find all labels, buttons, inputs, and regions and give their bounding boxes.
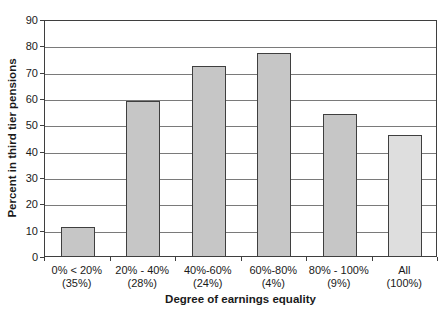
y-tick-mark	[40, 204, 44, 205]
gridline	[45, 153, 436, 154]
x-tick-mark	[241, 257, 242, 261]
chart-bar	[323, 114, 357, 256]
gridline	[45, 74, 436, 75]
y-tick-mark	[40, 46, 44, 47]
category-share-text: (35%)	[40, 277, 114, 290]
x-axis-title: Degree of earnings equality	[44, 293, 437, 305]
category-range-text: 40%-60%	[171, 264, 245, 277]
y-axis-title: Percent in third tier pensions	[6, 58, 18, 217]
gridline	[45, 179, 436, 180]
x-tick-mark	[175, 257, 176, 261]
category-share-text: (4%)	[237, 277, 311, 290]
y-tick-label: 90	[4, 14, 38, 26]
y-tick-mark	[40, 178, 44, 179]
y-tick-label: 30	[4, 172, 38, 184]
y-tick-label: 0	[4, 251, 38, 263]
x-category-label: 40%-60%(24%)	[171, 264, 245, 290]
y-tick-label: 60	[4, 93, 38, 105]
x-category-label: 80% - 100%(9%)	[302, 264, 376, 290]
category-range-text: 80% - 100%	[302, 264, 376, 277]
x-tick-mark	[437, 257, 438, 261]
category-share-text: (24%)	[171, 277, 245, 290]
y-tick-mark	[40, 73, 44, 74]
bar-chart: Percent in third tier pensions 010203040…	[0, 0, 445, 317]
gridline	[45, 47, 436, 48]
x-tick-mark	[110, 257, 111, 261]
category-range-text: 0% < 20%	[40, 264, 114, 277]
category-range-text: 60%-80%	[237, 264, 311, 277]
x-category-label: 0% < 20%(35%)	[40, 264, 114, 290]
y-tick-label: 20	[4, 198, 38, 210]
chart-bar	[257, 53, 291, 256]
chart-bar	[388, 135, 422, 256]
y-tick-label: 40	[4, 146, 38, 158]
y-tick-label: 80	[4, 40, 38, 52]
y-tick-mark	[40, 20, 44, 21]
gridline	[45, 100, 436, 101]
y-tick-mark	[40, 152, 44, 153]
x-tick-mark	[44, 257, 45, 261]
y-tick-mark	[40, 231, 44, 232]
x-tick-mark	[372, 257, 373, 261]
y-tick-label: 70	[4, 67, 38, 79]
y-tick-mark	[40, 125, 44, 126]
x-category-label: All(100%)	[368, 264, 442, 290]
y-tick-label: 10	[4, 225, 38, 237]
category-share-text: (9%)	[302, 277, 376, 290]
chart-bar	[61, 227, 95, 256]
y-tick-label: 50	[4, 119, 38, 131]
y-tick-mark	[40, 99, 44, 100]
category-share-text: (100%)	[368, 277, 442, 290]
gridline	[45, 126, 436, 127]
category-range-text: 20% - 40%	[106, 264, 180, 277]
plot-area	[44, 20, 437, 257]
chart-bar	[126, 101, 160, 256]
category-range-text: All	[368, 264, 442, 277]
x-tick-mark	[306, 257, 307, 261]
category-share-text: (28%)	[106, 277, 180, 290]
x-category-label: 60%-80%(4%)	[237, 264, 311, 290]
gridline	[45, 232, 436, 233]
chart-bar	[192, 66, 226, 256]
gridline	[45, 205, 436, 206]
x-category-label: 20% - 40%(28%)	[106, 264, 180, 290]
